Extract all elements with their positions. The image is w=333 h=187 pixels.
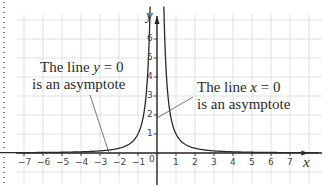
x-tick-label: 4 [230,158,236,167]
y-tick-label: 1 [147,129,153,138]
y-tick-label: 4 [147,72,153,81]
x-tick-label: 7 [287,158,293,167]
y-tick-label: 3 [147,91,153,100]
annotation-y-asymptote-line1: The line y = 0 [40,60,123,75]
annotation-y-asymptote-line2: is an asymptote [32,77,125,92]
annotation-x-asymptote-line2: is an asymptote [197,97,290,112]
y-tick-label: 2 [147,110,153,119]
x-tick-label: −6 [37,158,50,167]
x-tick-label: −2 [113,158,126,167]
x-tick-label: 3 [211,158,217,167]
x-tick-label: −4 [75,158,88,167]
y-tick-label: 6 [147,34,153,43]
x-tick-label: 1 [173,158,179,167]
y-axis-label: y [146,8,153,23]
annotation-x-asymptote-line1: The line x = 0 [197,80,280,95]
x-tick-label: 5 [249,158,255,167]
pointer-y-asymptote [90,95,109,153]
x-tick-label: −3 [94,158,107,167]
x-tick-label: 2 [192,158,198,167]
x-tick-label: 6 [268,158,274,167]
x-axis-label: x [303,155,310,170]
x-tick-label: −5 [56,158,69,167]
origin-label: 0 [149,155,155,164]
y-tick-label: 5 [147,53,153,62]
x-tick-label: −7 [18,158,31,167]
x-tick-label: −1 [132,158,145,167]
